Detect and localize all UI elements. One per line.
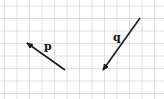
vector-diagram: p q [0, 0, 164, 99]
vector-p-label: p [44, 41, 52, 52]
grid [0, 0, 164, 99]
vector-q-label: q [113, 32, 121, 43]
vector-q-arrow [103, 18, 140, 70]
grid-lines [0, 0, 164, 99]
